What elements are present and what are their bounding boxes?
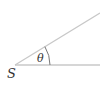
angled-ray bbox=[15, 13, 100, 65]
diagram-svg: θ S bbox=[0, 0, 100, 98]
angle-label: θ bbox=[37, 52, 44, 65]
angle-diagram: θ S bbox=[0, 0, 100, 98]
angle-arc bbox=[45, 47, 50, 65]
vertex-label: S bbox=[7, 66, 16, 81]
